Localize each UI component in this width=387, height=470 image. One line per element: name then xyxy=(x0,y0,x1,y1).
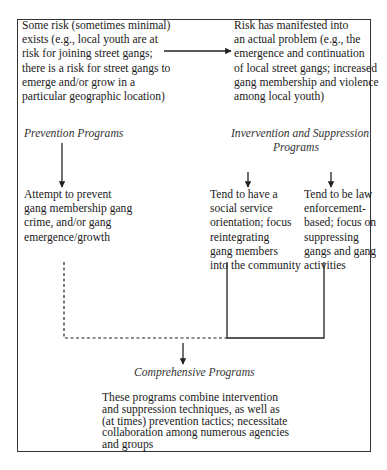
dashed-prevention-connector xyxy=(64,262,227,338)
solid-intervention-connector xyxy=(227,262,324,338)
connectors xyxy=(0,0,387,470)
